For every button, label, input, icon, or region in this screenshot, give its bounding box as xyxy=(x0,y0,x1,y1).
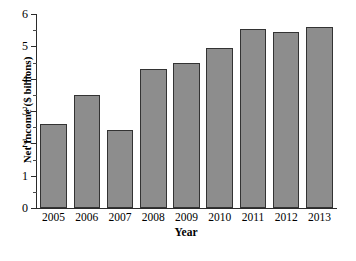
bar-chart: Net Income ($ billions) 0123456 20052006… xyxy=(0,0,356,261)
x-tick-label-2007: 2007 xyxy=(103,211,136,223)
bar-2006[interactable] xyxy=(74,95,101,208)
x-tick-label-2005: 2005 xyxy=(37,211,70,223)
x-tick-label-2010: 2010 xyxy=(203,211,236,223)
bar-slot xyxy=(173,14,200,208)
x-tick-label-2011: 2011 xyxy=(236,211,269,223)
plot-area: 0123456 20052006200720082009201020112012… xyxy=(36,14,336,208)
bar-slot xyxy=(140,14,167,208)
y-tick-label: 2 xyxy=(22,137,28,149)
bar-2013[interactable] xyxy=(306,27,333,208)
x-tick-label-2009: 2009 xyxy=(170,211,203,223)
bar-2012[interactable] xyxy=(273,32,300,208)
y-tick-label: 3 xyxy=(22,105,28,117)
y-tick-label: 1 xyxy=(22,170,28,182)
bar-2011[interactable] xyxy=(240,29,267,208)
y-tick-major xyxy=(31,208,37,209)
bar-slot xyxy=(74,14,101,208)
x-tick-label-2012: 2012 xyxy=(270,211,303,223)
bar-series xyxy=(37,14,336,208)
x-axis-line xyxy=(36,208,337,209)
bar-2010[interactable] xyxy=(206,48,233,208)
bar-slot xyxy=(306,14,333,208)
bar-slot xyxy=(40,14,67,208)
y-tick-label: 4 xyxy=(22,73,28,85)
y-tick-label: 5 xyxy=(22,40,28,52)
bar-2005[interactable] xyxy=(40,124,67,208)
bar-slot xyxy=(206,14,233,208)
bar-2008[interactable] xyxy=(140,69,167,208)
y-tick-label: 6 xyxy=(22,8,28,20)
y-tick-label: 0 xyxy=(22,202,28,214)
x-axis-title: Year xyxy=(36,226,336,238)
bar-2007[interactable] xyxy=(107,130,134,208)
x-tick-label-2008: 2008 xyxy=(137,211,170,223)
x-tick-label-2006: 2006 xyxy=(70,211,103,223)
bar-slot xyxy=(273,14,300,208)
x-tick-label-2013: 2013 xyxy=(303,211,336,223)
bar-slot xyxy=(107,14,134,208)
bar-slot xyxy=(240,14,267,208)
bar-2009[interactable] xyxy=(173,63,200,209)
